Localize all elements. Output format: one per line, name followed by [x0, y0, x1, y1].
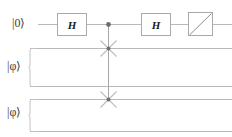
- control-dot[interactable]: [106, 22, 111, 27]
- swap-center-dot: [107, 47, 111, 51]
- hadamard-label-2: H: [151, 19, 161, 31]
- brace-phi-second: [29, 100, 37, 132]
- measurement-gate[interactable]: [189, 13, 213, 36]
- brace-phi-first: [29, 49, 37, 87]
- ket-label-ancilla: |0⟩: [12, 17, 25, 29]
- wire-group: [30, 25, 232, 132]
- hadamard-label-1: H: [67, 19, 77, 31]
- hadamard-gate-2[interactable]: H: [142, 14, 171, 36]
- brace-group: [29, 49, 37, 132]
- ket-label-phi-second: |φ⟩: [7, 106, 21, 118]
- circuit-canvas: H H: [0, 0, 232, 137]
- quantum-circuit-diagram: H H |0⟩ |φ⟩ |φ⟩: [0, 0, 232, 137]
- ket-label-phi-first: |φ⟩: [7, 60, 21, 72]
- swap-center-dot: [107, 98, 111, 102]
- hadamard-gate-1[interactable]: H: [58, 14, 87, 36]
